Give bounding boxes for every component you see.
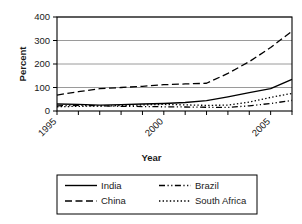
- ytick-label-400: 400: [34, 11, 50, 22]
- legend-label-india[interactable]: India: [101, 180, 122, 191]
- xtick-label-2005: 2005: [249, 116, 272, 139]
- legend-label-south-africa[interactable]: South Africa: [195, 195, 247, 206]
- xtick-label-2000: 2000: [143, 116, 166, 139]
- ytick-label-0: 0: [45, 105, 50, 116]
- x-axis-title: Year: [141, 152, 161, 163]
- chart-figure: 0100200300400199520002005PercentYearIndi…: [0, 0, 302, 224]
- legend-label-brazil[interactable]: Brazil: [195, 180, 219, 191]
- ytick-label-100: 100: [34, 82, 50, 93]
- ytick-label-300: 300: [34, 35, 50, 46]
- ytick-label-200: 200: [34, 58, 50, 69]
- legend-label-china[interactable]: China: [101, 195, 127, 206]
- y-axis-title: Percent: [17, 46, 28, 82]
- xtick-label-1995: 1995: [36, 116, 59, 139]
- line-chart: 0100200300400199520002005PercentYearIndi…: [0, 0, 302, 224]
